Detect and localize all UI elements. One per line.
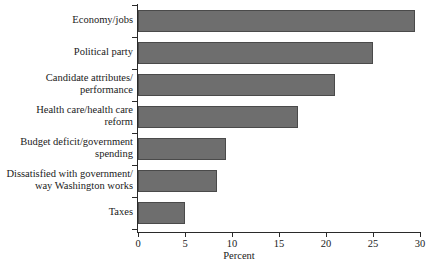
bar-row — [138, 42, 420, 64]
category-label: Taxes — [0, 206, 133, 219]
x-tick — [185, 232, 186, 237]
y-tick — [132, 229, 138, 230]
category-label: Health care/health care reform — [0, 104, 133, 129]
bar-row — [138, 170, 420, 192]
x-tick — [279, 232, 280, 237]
category-label: Budget deficit/government spending — [0, 136, 133, 161]
category-label: Dissatisfied with government/ way Washin… — [0, 168, 133, 193]
y-tick — [132, 197, 138, 198]
y-tick — [132, 37, 138, 38]
category-label: Candidate attributes/ performance — [0, 72, 133, 97]
y-tick — [132, 5, 138, 6]
x-tick — [138, 232, 139, 237]
bar — [138, 42, 373, 64]
category-label: Political party — [0, 46, 133, 59]
bar — [138, 170, 217, 192]
y-tick — [132, 165, 138, 166]
category-label: Economy/jobs — [0, 14, 133, 27]
bar-row — [138, 202, 420, 224]
x-tick-label: 20 — [311, 238, 341, 250]
bar-chart: Economy/jobsPolitical partyCandidate att… — [0, 0, 436, 265]
x-tick — [373, 232, 374, 237]
y-tick — [132, 133, 138, 134]
bar — [138, 202, 185, 224]
bar — [138, 138, 226, 160]
bar — [138, 106, 298, 128]
x-axis-title: Percent — [0, 250, 436, 261]
plot-area — [138, 0, 420, 232]
x-tick-label: 30 — [405, 238, 435, 250]
x-tick-label: 25 — [358, 238, 388, 250]
x-tick-label: 0 — [123, 238, 153, 250]
x-axis-title-text: Percent — [223, 250, 255, 261]
x-tick-label: 15 — [264, 238, 294, 250]
y-tick — [132, 101, 138, 102]
y-tick — [132, 69, 138, 70]
x-tick-label: 10 — [217, 238, 247, 250]
bar-row — [138, 74, 420, 96]
x-tick — [232, 232, 233, 237]
x-tick-label: 5 — [170, 238, 200, 250]
x-tick — [326, 232, 327, 237]
bar-row — [138, 106, 420, 128]
bar — [138, 74, 335, 96]
bar-row — [138, 10, 420, 32]
bar-row — [138, 138, 420, 160]
bar — [138, 10, 415, 32]
category-label-column: Economy/jobsPolitical partyCandidate att… — [0, 0, 133, 232]
x-tick — [420, 232, 421, 237]
